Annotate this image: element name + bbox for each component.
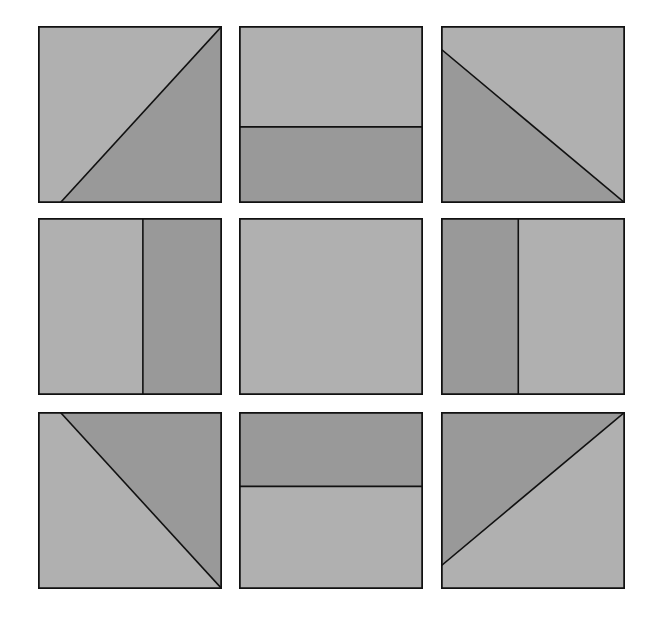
tile-plain xyxy=(239,218,423,395)
pattern-grid-diagram xyxy=(0,0,646,621)
tile-diagonal-bottom-left-dark xyxy=(441,26,625,203)
dark-region xyxy=(441,218,518,395)
dark-region xyxy=(239,412,423,486)
tile-vertical-right-dark xyxy=(38,218,222,395)
dark-region xyxy=(239,127,423,203)
tile-diagonal-top-left-dark xyxy=(441,412,625,589)
dark-region xyxy=(143,218,222,395)
tile-diagonal-top-right-dark xyxy=(38,412,222,589)
light-region xyxy=(239,218,423,395)
tile-diagonal-bottom-right-dark xyxy=(38,26,222,203)
tile-vertical-left-dark xyxy=(441,218,625,395)
tile-horizontal-top-dark xyxy=(239,412,423,589)
tile-horizontal-bottom-dark xyxy=(239,26,423,203)
